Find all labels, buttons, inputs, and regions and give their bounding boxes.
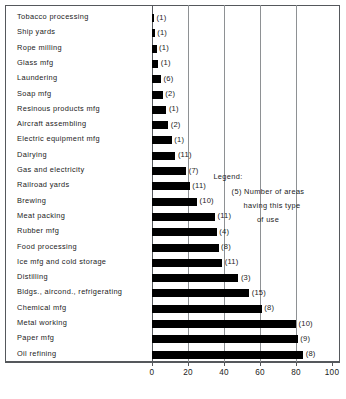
bar-value-label: (10) (299, 319, 313, 328)
bar-value-label: (11) (192, 181, 206, 190)
bar (152, 259, 222, 267)
x-tick-label: 20 (183, 368, 193, 377)
bar (152, 29, 155, 37)
x-tick (332, 362, 333, 366)
x-tick-label: 100 (325, 368, 340, 377)
category-label: Railroad yards (17, 180, 70, 189)
bar-value-label: (1) (157, 13, 167, 22)
category-label: Rubber mfg (17, 226, 59, 235)
bar (152, 335, 298, 343)
category-label: Resinous products mfg (17, 104, 100, 113)
category-label: Meat packing (17, 211, 65, 220)
bar (152, 182, 190, 190)
bar-value-label: (6) (164, 74, 174, 83)
bar (152, 198, 197, 206)
bar-value-label: (11) (178, 150, 192, 159)
bar (152, 14, 154, 22)
bar-value-label: (1) (157, 28, 167, 37)
bar-rows: Tobacco processing(1)Ship yards(1)Rope m… (0, 0, 346, 362)
bar-value-label: (1) (169, 104, 179, 113)
bar-value-label: (8) (221, 242, 231, 251)
bar-value-label: (1) (174, 135, 184, 144)
bar-value-label: (11) (225, 257, 239, 266)
category-label: Gas and electricity (17, 165, 84, 174)
bar-value-label: (4) (219, 227, 229, 236)
legend-line-2: having this type (244, 200, 301, 212)
category-label: Brewing (17, 196, 46, 205)
x-tick (188, 362, 189, 366)
horizontal-bar-chart: Tobacco processing(1)Ship yards(1)Rope m… (0, 0, 346, 399)
bar-value-label: (9) (300, 334, 310, 343)
bar-value-label: (2) (165, 89, 175, 98)
x-tick (260, 362, 261, 366)
x-tick (152, 362, 153, 366)
bar (152, 228, 217, 236)
bar-value-label: (11) (218, 211, 232, 220)
bar-value-label: (1) (161, 58, 171, 67)
x-tick-label: 80 (291, 368, 301, 377)
bar (152, 121, 168, 129)
category-label: Distilling (17, 272, 48, 281)
category-label: Electric equipment mfg (17, 134, 100, 143)
bar-value-label: (8) (306, 349, 316, 358)
bar (152, 274, 238, 282)
bar (152, 305, 262, 313)
bar (152, 167, 186, 175)
bar (152, 244, 219, 252)
category-label: Tobacco processing (17, 12, 89, 21)
bar (152, 152, 175, 160)
category-label: Bldgs., aircond., refrigerating (17, 287, 122, 296)
x-axis (5, 362, 340, 363)
category-label: Glass mfg (17, 58, 53, 67)
category-label: Laundering (17, 73, 58, 82)
x-tick (296, 362, 297, 366)
bar-value-label: (15) (252, 288, 266, 297)
bar (152, 136, 172, 144)
category-label: Ice mfg and cold storage (17, 257, 106, 266)
category-label: Chemical mfg (17, 303, 66, 312)
bar (152, 289, 249, 297)
category-label: Metal working (17, 318, 67, 327)
legend-line-3: of use (257, 214, 279, 226)
legend-title: Legend: (213, 171, 242, 183)
bar (152, 351, 303, 359)
bar (152, 75, 161, 83)
bar-value-label: (10) (200, 196, 214, 205)
bar (152, 106, 166, 114)
bar-value-label: (8) (264, 303, 274, 312)
bar-value-label: (2) (171, 120, 181, 129)
x-tick-label: 0 (150, 368, 155, 377)
bar-value-label: (1) (159, 43, 169, 52)
legend-line-1: (5) Number of areas (232, 186, 305, 198)
bar (152, 60, 158, 68)
x-tick-label: 60 (255, 368, 265, 377)
x-tick-label: 40 (219, 368, 229, 377)
bar (152, 91, 163, 99)
category-label: Soap mfg (17, 89, 51, 98)
category-label: Food processing (17, 242, 77, 251)
category-label: Rope milling (17, 43, 62, 52)
bar-value-label: (3) (241, 273, 251, 282)
bar (152, 45, 157, 53)
category-label: Dairying (17, 150, 47, 159)
bar (152, 213, 215, 221)
bar-value-label: (7) (189, 166, 199, 175)
category-label: Paper mfg (17, 333, 54, 342)
category-label: Oil refining (17, 349, 57, 358)
category-label: Ship yards (17, 27, 55, 36)
bar (152, 320, 296, 328)
category-label: Aircraft assembling (17, 119, 87, 128)
x-tick (224, 362, 225, 366)
